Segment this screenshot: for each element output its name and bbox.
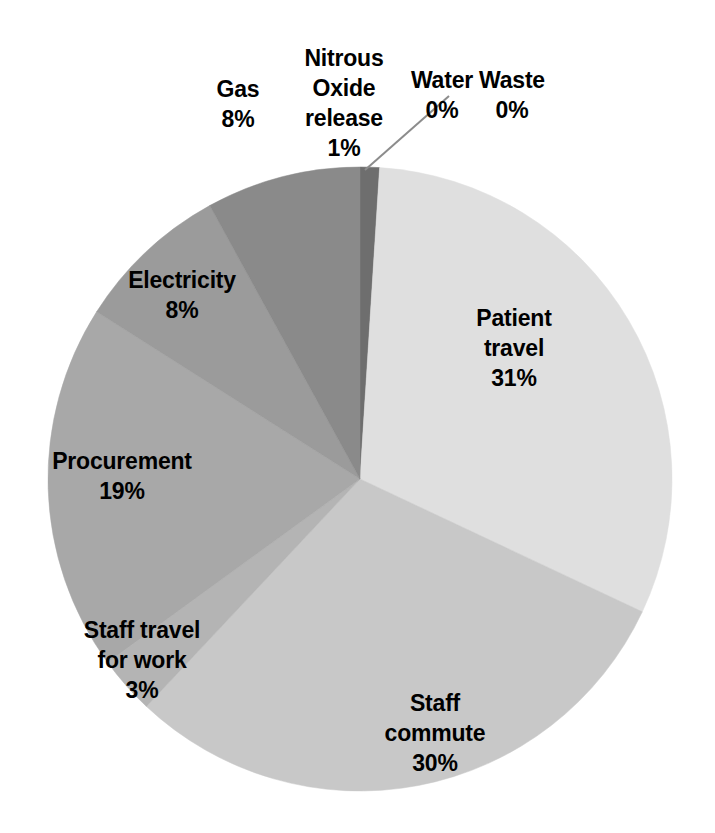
leader-line-water [365,96,449,170]
leader-lines-group [365,96,449,170]
pie-chart-svg [0,0,715,833]
pie-slices-group [48,167,672,791]
pie-chart-page: Nitrous Oxide release1%Water0%Waste0%Pat… [0,0,715,833]
